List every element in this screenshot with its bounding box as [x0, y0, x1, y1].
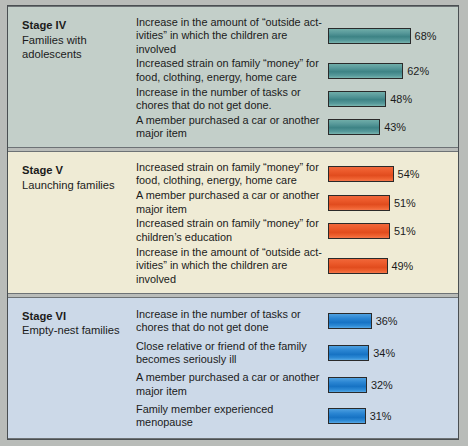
stage-rows: Increased strain on family “money” for f…	[136, 152, 458, 292]
row-category-label: A member purchased a car or another majo…	[136, 114, 328, 141]
bar-value-label: 62%	[403, 65, 429, 77]
value-bar	[328, 166, 394, 182]
stage-section: Stage VLaunching familiesIncreased strai…	[8, 151, 458, 293]
chart-row: Increase in the number of tasks or chore…	[136, 86, 452, 113]
bar-wrapper: 62%	[328, 63, 452, 79]
bar-wrapper: 51%	[328, 223, 452, 239]
bar-wrapper: 51%	[328, 195, 452, 211]
stages-bar-chart-figure: Stage IVFamilies with adolescentsIncreas…	[7, 5, 459, 440]
value-bar	[328, 258, 388, 274]
stage-label: Stage IVFamilies with adolescents	[8, 7, 136, 147]
row-category-label: Close relative or friend of the family b…	[136, 340, 328, 367]
value-bar	[328, 63, 403, 79]
stage-title: Stage IV	[22, 18, 128, 33]
value-bar	[328, 377, 367, 393]
value-bar	[328, 119, 380, 135]
value-bar	[328, 313, 372, 329]
bar-value-label: 51%	[390, 225, 416, 237]
stage-title: Stage VI	[22, 309, 128, 324]
row-category-label: Increase in the number of tasks or chore…	[136, 86, 328, 113]
value-bar	[328, 223, 390, 239]
chart-row: Increased strain on family “money” for f…	[136, 161, 452, 188]
stage-subtitle: Empty-nest families	[22, 323, 128, 338]
bar-value-label: 51%	[390, 197, 416, 209]
value-bar	[328, 345, 369, 361]
row-category-label: Increased strain on family “money” for f…	[136, 161, 328, 188]
stage-label: Stage VIEmpty-nest families	[8, 298, 136, 438]
bar-value-label: 43%	[380, 121, 406, 133]
stage-rows: Increase in the number of tasks or chore…	[136, 298, 458, 438]
chart-row: Close relative or friend of the family b…	[136, 340, 452, 367]
row-category-label: Increase in the amount of “outside act-i…	[136, 16, 328, 56]
bar-value-label: 31%	[366, 410, 392, 422]
bar-wrapper: 49%	[328, 258, 452, 274]
chart-row: A member purchased a car or another majo…	[136, 371, 452, 398]
bar-wrapper: 43%	[328, 119, 452, 135]
stage-label: Stage VLaunching families	[8, 152, 136, 292]
value-bar	[328, 91, 386, 107]
chart-row: A member purchased a car or another majo…	[136, 114, 452, 141]
row-category-label: A member purchased a car or another majo…	[136, 189, 328, 216]
chart-row: Increase in the number of tasks or chore…	[136, 308, 452, 335]
stage-section: Stage IVFamilies with adolescentsIncreas…	[8, 6, 458, 148]
row-category-label: A member purchased a car or another majo…	[136, 371, 328, 398]
bar-value-label: 68%	[411, 30, 437, 42]
stage-subtitle: Launching families	[22, 178, 128, 193]
stage-rows: Increase in the amount of “outside act-i…	[136, 7, 458, 147]
chart-row: Increase in the amount of “outside act-i…	[136, 246, 452, 286]
chart-row: Increased strain on family “money” for f…	[136, 57, 452, 84]
chart-row: Increased strain on family “money” for c…	[136, 217, 452, 244]
row-category-label: Increase in the number of tasks or chore…	[136, 308, 328, 335]
value-bar	[328, 408, 366, 424]
row-category-label: Increase in the amount of “outside act-i…	[136, 246, 328, 286]
bar-wrapper: 34%	[328, 345, 452, 361]
bar-value-label: 34%	[369, 347, 395, 359]
row-category-label: Family member experienced menopause	[136, 403, 328, 430]
row-category-label: Increased strain on family “money” for c…	[136, 217, 328, 244]
bar-wrapper: 48%	[328, 91, 452, 107]
bar-wrapper: 32%	[328, 377, 452, 393]
value-bar	[328, 28, 411, 44]
stage-subtitle: Families with adolescents	[22, 33, 128, 62]
chart-row: Increase in the amount of “outside act-i…	[136, 16, 452, 56]
bar-value-label: 54%	[394, 168, 420, 180]
bar-value-label: 48%	[386, 93, 412, 105]
chart-row: A member purchased a car or another majo…	[136, 189, 452, 216]
bar-wrapper: 31%	[328, 408, 452, 424]
bar-value-label: 36%	[372, 315, 398, 327]
bar-value-label: 49%	[388, 260, 414, 272]
bar-wrapper: 36%	[328, 313, 452, 329]
bar-value-label: 32%	[367, 379, 393, 391]
bar-wrapper: 68%	[328, 28, 452, 44]
bar-wrapper: 54%	[328, 166, 452, 182]
chart-row: Family member experienced menopause31%	[136, 403, 452, 430]
value-bar	[328, 195, 390, 211]
stage-title: Stage V	[22, 163, 128, 178]
stage-section: Stage VIEmpty-nest familiesIncrease in t…	[8, 297, 458, 439]
row-category-label: Increased strain on family “money” for f…	[136, 57, 328, 84]
